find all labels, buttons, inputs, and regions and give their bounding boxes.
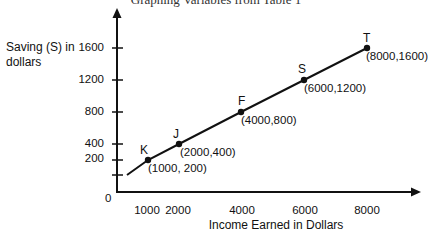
point-letter-k: K <box>140 143 148 157</box>
point-annotation-k: (1000, 200) <box>148 162 207 174</box>
y-tick-400: 400 <box>64 137 104 149</box>
x-axis-arrow-icon <box>411 188 421 197</box>
x-tick-4000: 4000 <box>222 204 262 216</box>
point-letter-f: F <box>238 94 245 108</box>
y-tick-1200: 1200 <box>64 73 104 85</box>
y-axis-arrow-icon <box>113 8 122 18</box>
y-tick-800: 800 <box>64 105 104 117</box>
y-tick-1600: 1600 <box>64 41 104 53</box>
x-tick-6000: 6000 <box>285 204 325 216</box>
data-line <box>127 48 367 175</box>
point-annotation-j: (2000,400) <box>180 146 236 158</box>
point-letter-t: T <box>363 31 370 45</box>
point-annotation-t: (8000,1600) <box>366 50 428 62</box>
point-annotation-s: (6000,1200) <box>304 82 366 94</box>
point-letter-j: J <box>173 127 179 141</box>
x-tick-8000: 8000 <box>347 204 387 216</box>
origin-label: 0 <box>105 192 111 204</box>
y-tick-200: 200 <box>64 152 104 164</box>
x-axis-label: Income Earned in Dollars <box>0 218 432 232</box>
point-letter-s: S <box>298 62 306 76</box>
point-annotation-f: (4000,800) <box>241 114 297 126</box>
x-tick-2000: 2000 <box>158 204 198 216</box>
